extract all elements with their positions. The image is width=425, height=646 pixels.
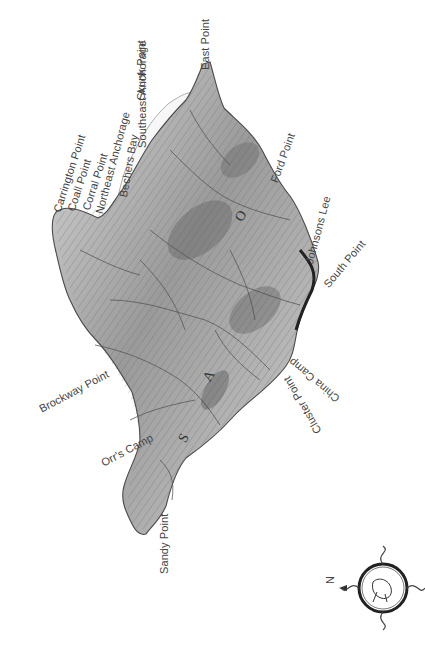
- label-east-point: East Point: [199, 19, 211, 70]
- compass-rose-icon: [339, 546, 425, 630]
- island-relief: [0, 0, 425, 646]
- island-map: N S A O East Point Skunk Point Southeast…: [0, 0, 425, 646]
- label-southeast-anchorage: Southeast Anchorage: [136, 41, 148, 148]
- compass-north-label: N: [324, 576, 336, 584]
- label-sandy-point: Sandy Point: [158, 514, 170, 574]
